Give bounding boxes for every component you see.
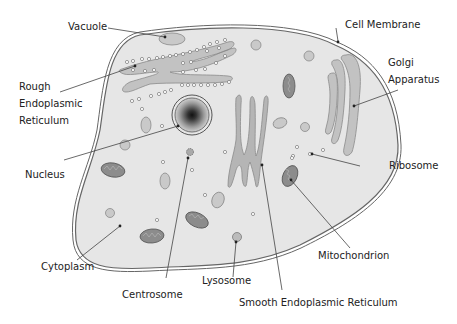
label-golgi-line1: Golgi — [388, 57, 414, 68]
label-cytoplasm: Cytoplasm — [41, 261, 94, 272]
label-lysosome: Lysosome — [202, 275, 251, 286]
vacuole — [159, 33, 185, 45]
label-smooth-er: Smooth Endoplasmic Reticulum — [239, 297, 398, 308]
label-rough-er-line3: Reticulum — [19, 115, 69, 126]
label-rough-er-line2: Endoplasmic — [19, 98, 83, 109]
label-nucleus: Nucleus — [25, 169, 65, 180]
label-centrosome: Centrosome — [122, 289, 183, 300]
nucleus — [172, 95, 212, 135]
label-rough-er-line1: Rough — [19, 81, 51, 92]
cell-diagram: Vacuole Cell Membrane Rough Endoplasmic … — [0, 0, 457, 324]
label-cell-membrane: Cell Membrane — [345, 19, 420, 30]
label-vacuole: Vacuole — [68, 21, 107, 32]
label-mitochondrion: Mitochondrion — [318, 250, 389, 261]
centrosome — [187, 149, 194, 156]
lysosome — [233, 233, 242, 242]
label-ribosome: Ribosome — [389, 160, 438, 171]
label-golgi-line2: Apparatus — [388, 74, 439, 85]
